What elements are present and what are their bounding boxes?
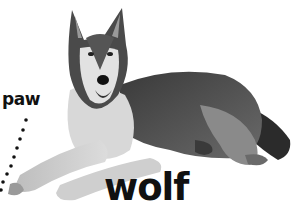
eye-left xyxy=(88,52,94,56)
wolf-diagram: paw wolf xyxy=(0,0,293,210)
label-wolf: wolf xyxy=(104,166,188,209)
eye-right xyxy=(107,52,113,56)
label-paw: paw xyxy=(2,89,40,109)
nose xyxy=(97,75,109,85)
hind-paw-2 xyxy=(245,154,268,165)
